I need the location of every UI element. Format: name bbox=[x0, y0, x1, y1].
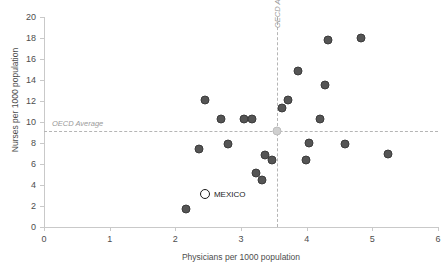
data-point bbox=[324, 36, 333, 45]
data-point bbox=[304, 139, 313, 148]
data-point bbox=[384, 149, 393, 158]
y-tick-label: 18 bbox=[20, 33, 36, 43]
y-tick-mark bbox=[40, 185, 44, 186]
x-tick-label: 5 bbox=[370, 234, 375, 244]
x-axis-title: Physicians per 1000 population bbox=[44, 252, 438, 262]
x-tick-label: 3 bbox=[238, 234, 243, 244]
data-point bbox=[356, 34, 365, 43]
y-tick-mark bbox=[40, 206, 44, 207]
data-point bbox=[247, 114, 256, 123]
x-tick-label: 2 bbox=[173, 234, 178, 244]
data-point-oecd-average bbox=[273, 127, 282, 136]
y-tick-mark bbox=[40, 143, 44, 144]
x-tick-mark bbox=[307, 227, 308, 231]
x-tick-mark bbox=[110, 227, 111, 231]
x-tick-label: 6 bbox=[435, 234, 440, 244]
y-tick-mark bbox=[40, 59, 44, 60]
x-tick-mark bbox=[241, 227, 242, 231]
data-point bbox=[194, 145, 203, 154]
y-tick-label: 12 bbox=[20, 96, 36, 106]
scatter-chart: 0123456 02468101214161820 OECD AverageOE… bbox=[0, 0, 448, 272]
oecd-average-label-horizontal: OECD Average bbox=[52, 119, 103, 128]
data-point bbox=[321, 81, 330, 90]
oecd-average-line-horizontal bbox=[44, 131, 438, 132]
y-tick-label: 2 bbox=[20, 201, 36, 211]
y-tick-mark bbox=[40, 122, 44, 123]
y-tick-label: 20 bbox=[20, 12, 36, 22]
y-tick-mark bbox=[40, 227, 44, 228]
x-tick-mark bbox=[175, 227, 176, 231]
y-tick-mark bbox=[40, 164, 44, 165]
data-point bbox=[315, 114, 324, 123]
data-point bbox=[200, 95, 209, 104]
data-point-label-mexico: MEXICO bbox=[214, 190, 246, 199]
y-tick-label: 16 bbox=[20, 54, 36, 64]
y-tick-label: 4 bbox=[20, 180, 36, 190]
data-point bbox=[284, 95, 293, 104]
data-point bbox=[267, 155, 276, 164]
y-axis-title: Nurses per 1000 population bbox=[10, 20, 20, 180]
data-point-mexico bbox=[200, 189, 210, 199]
data-point bbox=[223, 140, 232, 149]
oecd-average-label-vertical: OECD Average bbox=[273, 0, 282, 28]
data-point bbox=[302, 155, 311, 164]
x-tick-mark bbox=[44, 227, 45, 231]
y-tick-mark bbox=[40, 101, 44, 102]
data-point bbox=[258, 175, 267, 184]
oecd-average-line-vertical bbox=[277, 17, 278, 227]
y-tick-mark bbox=[40, 38, 44, 39]
y-tick-label: 0 bbox=[20, 222, 36, 232]
data-point bbox=[181, 205, 190, 214]
y-tick-mark bbox=[40, 17, 44, 18]
y-tick-label: 10 bbox=[20, 117, 36, 127]
x-tick-label: 1 bbox=[107, 234, 112, 244]
y-tick-mark bbox=[40, 80, 44, 81]
x-tick-label: 4 bbox=[304, 234, 309, 244]
x-tick-mark bbox=[438, 227, 439, 231]
data-point bbox=[278, 104, 287, 113]
y-tick-label: 14 bbox=[20, 75, 36, 85]
x-tick-label: 0 bbox=[41, 234, 46, 244]
data-point bbox=[217, 114, 226, 123]
data-point bbox=[294, 66, 303, 75]
y-tick-label: 8 bbox=[20, 138, 36, 148]
y-axis-line bbox=[44, 17, 45, 227]
y-tick-label: 6 bbox=[20, 159, 36, 169]
data-point bbox=[341, 140, 350, 149]
x-tick-mark bbox=[372, 227, 373, 231]
